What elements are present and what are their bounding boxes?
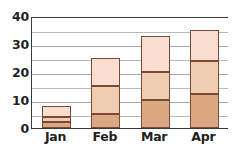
- bar-group[interactable]: [91, 16, 120, 128]
- bar-segment[interactable]: [190, 94, 219, 128]
- bar-segment[interactable]: [190, 61, 219, 95]
- x-axis: JanFebMarApr: [31, 131, 228, 151]
- bar-segment[interactable]: [42, 122, 71, 128]
- y-axis-tick-label: 0: [3, 123, 29, 136]
- bar-segment[interactable]: [42, 117, 71, 123]
- bar-group[interactable]: [141, 16, 170, 128]
- bar-chart: 010203040 JanFebMarApr: [0, 0, 235, 154]
- bar-group[interactable]: [42, 16, 71, 128]
- bars-layer: [32, 18, 228, 128]
- y-axis-tick-label: 30: [3, 39, 29, 52]
- y-axis-tick-label: 10: [3, 95, 29, 108]
- bar-segment[interactable]: [190, 30, 219, 61]
- y-axis-tick-label: 40: [3, 11, 29, 24]
- x-axis-tick-label: Feb: [80, 131, 129, 144]
- bar-segment[interactable]: [141, 100, 170, 128]
- bar-segment[interactable]: [141, 72, 170, 100]
- bar-segment[interactable]: [91, 114, 120, 128]
- plot-area: [31, 17, 228, 129]
- x-axis-tick-label: Mar: [130, 131, 179, 144]
- bar-segment[interactable]: [91, 58, 120, 86]
- bar-segment[interactable]: [42, 106, 71, 117]
- y-axis-tick-label: 20: [3, 67, 29, 80]
- bar-group[interactable]: [190, 16, 219, 128]
- bar-segment[interactable]: [91, 86, 120, 114]
- x-axis-tick-label: Jan: [31, 131, 80, 144]
- bar-segment[interactable]: [141, 36, 170, 72]
- x-axis-tick-label: Apr: [179, 131, 228, 144]
- y-axis: 010203040: [0, 0, 29, 154]
